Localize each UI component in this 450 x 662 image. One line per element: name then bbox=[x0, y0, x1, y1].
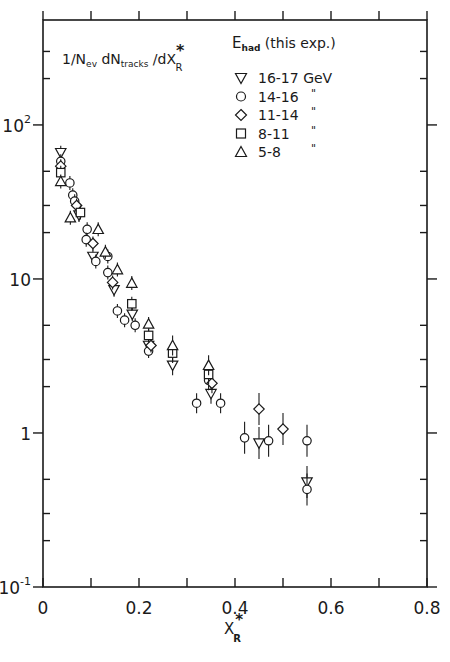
data-points bbox=[56, 146, 313, 506]
x-tick-label: 0.2 bbox=[125, 598, 152, 618]
circle-marker bbox=[120, 316, 128, 324]
series-square bbox=[57, 166, 213, 385]
series-circle bbox=[57, 154, 312, 505]
triangle-up-marker bbox=[203, 360, 213, 369]
circle-marker bbox=[113, 307, 121, 315]
triangle-down-marker bbox=[236, 74, 247, 84]
series-triangle-down bbox=[56, 146, 313, 498]
circle-marker bbox=[192, 399, 200, 407]
legend-entry-label: 11-14 bbox=[258, 107, 299, 123]
y-axis-label: 1/Nev dNtracks /dX*R bbox=[62, 41, 185, 73]
square-marker bbox=[128, 300, 136, 308]
y-tick-label: 10 bbox=[9, 270, 31, 290]
y-axis: 10210110-1 bbox=[0, 51, 437, 598]
y-tick-label: 102 bbox=[2, 113, 31, 136]
circle-marker bbox=[104, 268, 112, 276]
legend-ditto-mark: " bbox=[311, 105, 316, 118]
triangle-down-marker bbox=[206, 389, 216, 398]
circle-marker bbox=[264, 437, 272, 445]
x-tick-label: 0 bbox=[38, 598, 49, 618]
square-marker bbox=[76, 208, 84, 216]
triangle-up-marker bbox=[100, 247, 110, 256]
legend-entry-label: 16-17 GeV bbox=[258, 70, 333, 86]
figure: 00.20.40.60.8 10210110-1 1/Nev dNtracks … bbox=[0, 0, 450, 662]
triangle-up-marker bbox=[112, 264, 122, 273]
legend-ditto-mark: " bbox=[311, 87, 316, 100]
circle-marker bbox=[216, 399, 224, 407]
legend-entry-label: 8-11 bbox=[258, 126, 290, 142]
circle-marker bbox=[66, 179, 74, 187]
x-tick-label: 0.6 bbox=[317, 598, 344, 618]
circle-marker bbox=[92, 257, 100, 265]
triangle-up-marker bbox=[143, 319, 153, 328]
circle-marker bbox=[83, 225, 91, 233]
y-tick-label: 1 bbox=[20, 424, 31, 444]
diamond-marker bbox=[254, 404, 264, 414]
circle-marker bbox=[131, 321, 139, 329]
triangle-up-marker bbox=[236, 147, 247, 157]
diamond-marker bbox=[278, 424, 288, 434]
circle-marker bbox=[240, 434, 248, 442]
x-axis: 00.20.40.60.8 bbox=[38, 11, 441, 618]
circle-marker bbox=[237, 92, 246, 101]
scatter-plot: 00.20.40.60.8 10210110-1 1/Nev dNtracks … bbox=[0, 0, 450, 662]
diamond-marker bbox=[236, 110, 247, 121]
x-tick-label: 0.8 bbox=[413, 598, 440, 618]
legend-entry-label: 5-8 bbox=[258, 144, 281, 160]
circle-marker bbox=[303, 437, 311, 445]
triangle-down-marker bbox=[109, 286, 119, 295]
triangle-up-marker bbox=[65, 212, 75, 221]
series-diamond bbox=[56, 159, 289, 445]
circle-marker bbox=[303, 485, 311, 493]
triangle-up-marker bbox=[167, 340, 177, 349]
legend-ditto-mark: " bbox=[311, 142, 316, 155]
plot-frame bbox=[43, 20, 427, 587]
legend-ditto-mark: " bbox=[311, 124, 316, 137]
triangle-down-marker bbox=[254, 439, 264, 448]
triangle-up-marker bbox=[93, 224, 103, 233]
legend: Ehad (this exp.) 16-17 GeV14-16"11-14"8-… bbox=[232, 34, 336, 160]
y-tick-label: 10-1 bbox=[0, 575, 31, 598]
triangle-up-marker bbox=[127, 278, 137, 287]
legend-title: Ehad (this exp.) bbox=[232, 34, 336, 53]
legend-entry-label: 14-16 bbox=[258, 89, 299, 105]
triangle-up-marker bbox=[56, 176, 66, 185]
square-marker bbox=[144, 331, 152, 339]
square-marker bbox=[237, 129, 246, 138]
